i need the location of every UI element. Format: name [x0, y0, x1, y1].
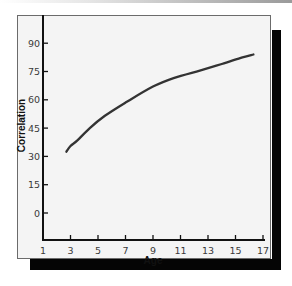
x-tick-label: 13: [202, 245, 214, 256]
y-tick-label: 90: [28, 38, 40, 49]
y-tick-label: 45: [28, 123, 40, 134]
x-tick-label: 3: [67, 245, 73, 256]
x-tick-label: 5: [95, 245, 101, 256]
y-tick-label: 15: [28, 179, 40, 190]
axes: [42, 15, 265, 241]
x-tick-label: 11: [174, 245, 186, 256]
x-axis-title: Age: [144, 255, 163, 266]
x-tick-label: 17: [257, 245, 269, 256]
series-line: [66, 55, 253, 152]
y-tick-label: 30: [28, 151, 40, 162]
y-tick-label: 75: [28, 66, 40, 77]
x-ticks: 1357911131517: [40, 235, 269, 256]
x-tick-label: 15: [229, 245, 241, 256]
chart: 1357911131517 0153045607590 Age Correlat…: [0, 0, 292, 286]
y-ticks: 0153045607590: [28, 38, 48, 219]
y-tick-label: 0: [34, 208, 40, 219]
x-tick-label: 1: [40, 245, 46, 256]
x-tick-label: 7: [122, 245, 128, 256]
series-group: [66, 55, 253, 152]
y-axis-title: Correlation: [16, 99, 27, 152]
y-tick-label: 60: [28, 94, 40, 105]
